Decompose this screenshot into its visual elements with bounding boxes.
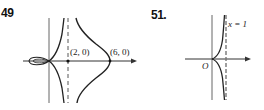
point-2-0 [66, 59, 69, 62]
curve-lower [212, 59, 225, 100]
x-axis-arrow-icon [245, 57, 251, 62]
origin-label: O [202, 61, 209, 71]
curve-upper [212, 15, 225, 59]
figure-number-51: 51. [151, 8, 166, 22]
branch-lower [49, 61, 64, 103]
point-label-2-0: (2, 0) [70, 47, 90, 57]
asymptote-label: x = 1 [228, 19, 247, 29]
figure-number-49: 49 [1, 6, 13, 20]
figures-canvas [0, 0, 264, 110]
point-6-0 [109, 60, 112, 63]
figure-49-graph [23, 18, 137, 103]
x-axis-arrow-icon [131, 59, 137, 64]
branch-upper [49, 18, 64, 61]
point-label-6-0: (6, 0) [110, 47, 130, 57]
